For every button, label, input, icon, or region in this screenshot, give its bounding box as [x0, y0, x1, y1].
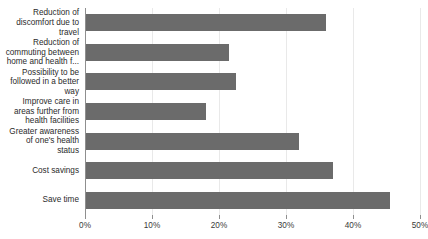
bar-row[interactable] [85, 126, 420, 156]
y-axis-category-label: Save time [0, 185, 82, 215]
category-label-line: commuting between [6, 48, 79, 58]
category-label-line: Save time [43, 195, 79, 205]
bar[interactable] [85, 73, 236, 90]
category-label-line: Greater awareness [9, 127, 79, 137]
bar[interactable] [85, 44, 229, 61]
x-axis-tick-mark [353, 215, 354, 219]
category-label-line: travel [59, 28, 79, 38]
category-label-line: areas further from [14, 107, 79, 117]
x-axis-tick-label: 30% [278, 221, 294, 230]
y-axis-category-labels: Reduction ofdiscomfort due totravelReduc… [0, 8, 82, 215]
bar[interactable] [85, 14, 326, 31]
category-label-line: Cost savings [32, 166, 79, 176]
category-label-line: discomfort due to [16, 18, 79, 28]
bar-row[interactable] [85, 67, 420, 97]
x-axis-tick-mark [420, 215, 421, 219]
x-axis-tick-mark [85, 215, 86, 219]
x-axis-tick-label: 40% [345, 221, 361, 230]
bar[interactable] [85, 103, 206, 120]
x-axis-tick-mark [286, 215, 287, 219]
category-label-line: Improve care in [23, 97, 79, 107]
category-label-line: followed in a better [10, 77, 79, 87]
bar[interactable] [85, 192, 390, 209]
y-axis-category-label: Reduction ofdiscomfort due totravel [0, 8, 82, 38]
bar-series [85, 8, 420, 215]
bar-row[interactable] [85, 156, 420, 186]
x-axis-tick-label: 10% [144, 221, 160, 230]
bar[interactable] [85, 162, 333, 179]
category-label-line: Reduction of [33, 38, 79, 48]
y-axis-line [85, 8, 86, 215]
category-label-line: way [64, 87, 79, 97]
y-axis-category-label: Reduction ofcommuting betweenhome and he… [0, 38, 82, 68]
category-label-line: of one's health [26, 136, 79, 146]
y-axis-category-label: Greater awarenessof one's healthstatus [0, 126, 82, 156]
bar-row[interactable] [85, 38, 420, 68]
category-label-line: Possibility to be [22, 68, 79, 78]
x-axis-tick-label: 20% [211, 221, 227, 230]
x-axis-tick-mark [219, 215, 220, 219]
x-axis-tick-mark [152, 215, 153, 219]
category-label-line: health facilities [25, 116, 79, 126]
x-axis-tick-label: 50% [412, 221, 428, 230]
y-axis-category-label: Possibility to befollowed in a betterway [0, 67, 82, 97]
y-axis-category-label: Cost savings [0, 156, 82, 186]
bar[interactable] [85, 133, 299, 150]
plot-area [85, 8, 420, 215]
category-label-line: Reduction of [33, 8, 79, 18]
y-axis-category-label: Improve care inareas further fromhealth … [0, 97, 82, 127]
category-label-line: status [57, 146, 79, 156]
x-axis-tick-label: 0% [79, 221, 91, 230]
bar-row[interactable] [85, 97, 420, 127]
bar-row[interactable] [85, 8, 420, 38]
bar-row[interactable] [85, 185, 420, 215]
category-label-line: home and health f... [7, 57, 79, 67]
x-axis: 0%10%20%30%40%50% [85, 215, 420, 239]
gridline [420, 8, 421, 215]
